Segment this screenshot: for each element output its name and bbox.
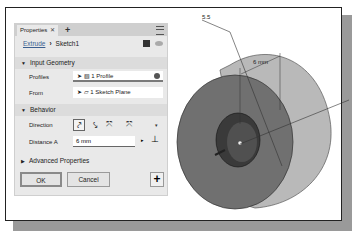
expand-triangle-icon: ▼ — [21, 57, 26, 69]
section-input-geometry[interactable]: ▼Input Geometry — [15, 57, 167, 69]
cursor-arrow-icon: ➤ ▧ — [77, 73, 91, 79]
direction-symmetric-button[interactable]: ⤧ — [103, 119, 115, 131]
direction-default-button[interactable]: ⤤ — [73, 119, 85, 131]
distance-a-input[interactable]: 6 mm — [73, 136, 135, 147]
tab-label: Properties — [20, 27, 47, 33]
tab-properties[interactable]: Properties✕ — [17, 25, 58, 36]
section-title: Advanced Properties — [29, 157, 89, 164]
direction-flipped-button[interactable]: ⤥ — [89, 119, 101, 131]
section-advanced-properties[interactable]: ▶Advanced Properties — [15, 155, 167, 167]
properties-panel: Properties✕ + Extrude›Sketch1 ▼Input Geo… — [14, 23, 168, 196]
panel-tab-bar: Properties✕ + — [15, 24, 167, 36]
breadcrumb-extrude-link[interactable]: Extrude — [23, 40, 45, 47]
hamburger-menu-icon[interactable] — [156, 26, 164, 35]
profiles-label: Profiles — [29, 74, 49, 80]
distance-dropdown-icon[interactable]: ▸ — [141, 137, 144, 143]
breadcrumb-separator: › — [49, 40, 51, 47]
origin-point — [238, 141, 242, 145]
ok-button[interactable]: OK — [20, 172, 62, 187]
dimension-callout: 5.5 — [202, 14, 211, 20]
add-tab-icon[interactable]: + — [65, 24, 70, 36]
cancel-button[interactable]: Cancel — [67, 172, 110, 187]
distance-dimension-label: 6 mm — [253, 59, 268, 65]
section-title: Behavior — [30, 106, 56, 113]
direction-label: Direction — [29, 122, 53, 128]
direction-more-icon[interactable]: ▾ — [150, 119, 162, 131]
hole-inner — [227, 122, 257, 162]
visibility-eye-icon[interactable] — [155, 41, 163, 46]
expand-triangle-icon: ▼ — [21, 104, 26, 116]
clear-selection-icon[interactable] — [154, 73, 160, 79]
section-title: Input Geometry — [30, 59, 75, 66]
breadcrumb-current: Sketch1 — [56, 40, 80, 47]
solid-cube-icon[interactable] — [143, 40, 150, 47]
distance-a-label: Distance A — [29, 139, 58, 145]
profiles-value: 1 Profile — [91, 73, 113, 79]
measure-icon[interactable]: ⊥ — [151, 134, 159, 144]
from-value: 1 Sketch Plane — [90, 89, 130, 95]
close-icon[interactable]: ✕ — [50, 27, 55, 33]
collapsed-triangle-icon: ▶ — [21, 155, 25, 167]
from-label: From — [29, 90, 43, 96]
apply-add-button[interactable]: + — [150, 172, 164, 187]
cursor-plane-icon: ➤ ▱ — [77, 89, 90, 95]
profiles-selector[interactable]: ➤ ▧ 1 Profile — [73, 71, 163, 82]
from-selector[interactable]: ➤ ▱ 1 Sketch Plane — [73, 87, 163, 98]
direction-asymmetric-button[interactable]: ⤧ — [123, 119, 135, 131]
breadcrumb: Extrude›Sketch1 — [23, 40, 79, 47]
section-behavior[interactable]: ▼Behavior — [15, 104, 167, 116]
